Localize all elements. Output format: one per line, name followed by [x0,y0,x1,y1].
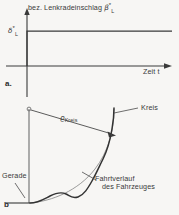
label-kreis: Kreis [141,104,158,112]
x-axis-label-text-a: Zeit [143,67,155,76]
label-fahrtverlauf: Fahrtverlauf des Fahrzeuges [95,175,155,192]
y-axis-label-a: bez. Lenkradeinschlag β*L [28,2,114,14]
gerade-leader-line [15,183,25,198]
radius-subscript: Kreis [65,117,78,123]
panel-letter-a: a. [5,79,12,88]
label-radius-kreis: ϱKreis [60,114,77,124]
x-axis-label-symbol-a: t [158,67,160,76]
panel-a-plot [0,0,179,97]
figure-container: bez. Lenkradeinschlag β*L δ*L Zeit t a. [0,0,179,215]
y-axis-label-sub-a: L [111,8,114,14]
step-amplitude-label: δ*L [8,25,18,37]
y-axis-label-text-a: bez. Lenkradeinschlag [28,3,102,12]
x-axis-label-a: Zeit t [143,68,160,76]
panel-letter-b: b [4,200,9,209]
label-fahrtverlauf-line2: des Fahrzeuges [95,183,155,191]
kreis-leader-line [114,108,138,113]
step-function-curve [27,31,172,66]
step-value-sub: L [15,31,18,37]
panel-b-trajectory: Kreis ϱKreis Gerade Fahrtverlauf des Fah… [0,95,179,215]
panel-b-plot [0,95,179,215]
label-gerade: Gerade [2,172,27,180]
panel-a-step-input: bez. Lenkradeinschlag β*L δ*L Zeit t a. [0,0,179,97]
x-axis-arrowhead-a [164,63,172,69]
